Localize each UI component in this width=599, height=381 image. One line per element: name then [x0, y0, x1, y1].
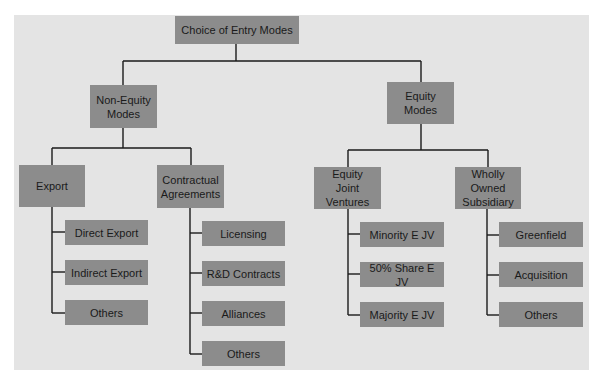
node-export: Export	[19, 165, 85, 207]
leaf-50-share-ejv: 50% Share E JV	[360, 262, 444, 287]
node-non-equity-modes: Non-Equity Modes	[90, 85, 157, 128]
leaf-contractual-others: Others	[202, 341, 285, 366]
leaf-export-others: Others	[65, 300, 148, 325]
leaf-wholly-owned-others: Others	[499, 302, 583, 327]
node-root-choice-of-entry-modes: Choice of Entry Modes	[175, 16, 299, 44]
leaf-licensing: Licensing	[202, 221, 285, 246]
node-equity-modes: Equity Modes	[387, 82, 454, 124]
leaf-acquisition: Acquisition	[499, 262, 583, 287]
leaf-greenfield: Greenfield	[499, 222, 583, 247]
leaf-alliances: Alliances	[202, 301, 285, 326]
leaf-rd-contracts: R&D Contracts	[202, 261, 285, 286]
leaf-minority-ejv: Minority E JV	[360, 222, 444, 247]
leaf-direct-export: Direct Export	[65, 220, 148, 245]
node-contractual-agreements: Contractual Agreements	[157, 165, 224, 208]
leaf-majority-ejv: Majority E JV	[360, 302, 444, 327]
node-equity-joint-ventures: Equity Joint Ventures	[314, 167, 381, 209]
node-wholly-owned-subsidiary: Wholly Owned Subsidiary	[455, 167, 521, 209]
leaf-indirect-export: Indirect Export	[65, 260, 148, 285]
